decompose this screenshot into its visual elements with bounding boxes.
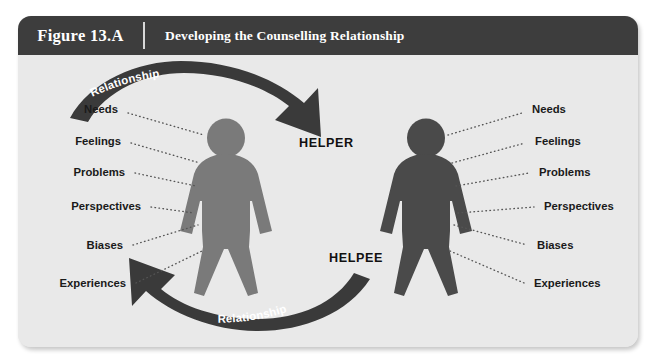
figure-body: Relationship Relationship [18, 55, 638, 347]
leader-line-needs-right [448, 113, 522, 135]
helpee-attribute-needs: Needs [532, 103, 566, 115]
leader-line-problems-right [456, 173, 529, 186]
top-arrow-label: Relationship [88, 67, 160, 98]
helper-attribute-needs: Needs [84, 103, 118, 115]
helper-attribute-problems: Problems [74, 166, 125, 178]
helpee-attribute-feelings: Feelings [535, 135, 581, 147]
counselling-relationship-diagram: Relationship Relationship [18, 55, 638, 347]
leader-line-feelings [131, 143, 200, 163]
leader-line-needs [128, 113, 204, 135]
figure-root: Figure 13.A Developing the Counselling R… [0, 0, 658, 359]
helper-attribute-perspectives: Perspectives [71, 200, 141, 212]
top-arrow-shape [70, 61, 321, 137]
helper-attribute-labels: Needs Feelings Problems Perspectives Bia… [59, 103, 141, 289]
helper-attribute-experiences: Experiences [59, 277, 126, 289]
leader-line-perspectives-right [458, 207, 534, 213]
top-arrow: Relationship [70, 61, 321, 137]
leader-line-experiences-right [450, 251, 524, 283]
helpee-attribute-labels: Needs Feelings Problems Perspectives Bia… [532, 103, 614, 289]
helper-attribute-feelings: Feelings [75, 135, 121, 147]
helpee-attribute-problems: Problems [539, 166, 590, 178]
figure-header: Figure 13.A Developing the Counselling R… [18, 16, 638, 55]
helpee-attribute-experiences: Experiences [534, 277, 601, 289]
helper-role-label: HELPER [299, 136, 354, 150]
helper-attribute-biases: Biases [87, 239, 123, 251]
helpee-attribute-perspectives: Perspectives [544, 200, 614, 212]
helpee-role-label: HELPEE [329, 251, 383, 265]
leader-line-problems [135, 173, 196, 186]
helpee-figure-icon [380, 119, 472, 297]
leader-line-biases-right [454, 225, 527, 245]
helper-figure-icon [180, 119, 272, 297]
leader-line-feelings-right [452, 143, 525, 163]
figure-panel: Figure 13.A Developing the Counselling R… [18, 16, 638, 347]
figure-title: Developing the Counselling Relationship [145, 28, 405, 44]
helpee-attribute-biases: Biases [537, 239, 573, 251]
figure-number-label: Figure 13.A [18, 26, 143, 46]
